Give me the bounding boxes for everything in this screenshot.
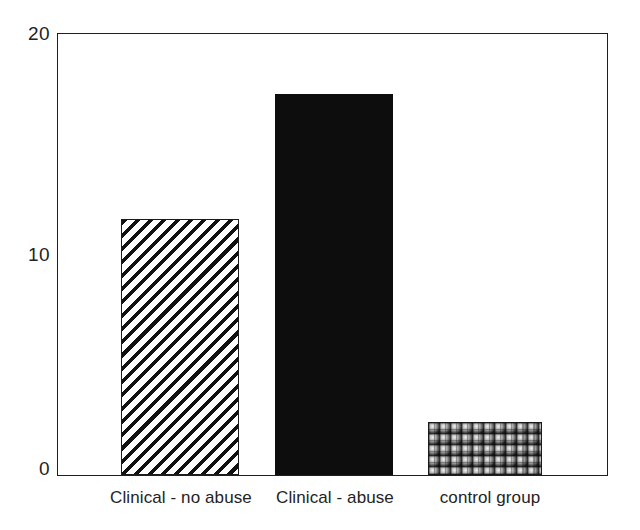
y-tick-label-10: 10: [6, 245, 50, 264]
x-label-clinical-abuse: Clinical - abuse: [256, 487, 414, 509]
x-label-clinical-no-abuse: Clinical - no abuse: [100, 487, 262, 509]
bar-clinical-no-abuse: [121, 219, 239, 475]
y-axis-tick-labels: 20 10 0: [0, 0, 50, 530]
bar-control-group: [428, 422, 542, 475]
y-tick-label-20: 20: [6, 24, 50, 43]
x-axis-category-labels: Clinical - no abuse Clinical - abuse con…: [0, 487, 640, 517]
bar-clinical-abuse: [275, 94, 393, 476]
bar-chart-figure: 20 10 0 Clinical - no abuse Clinical - a…: [0, 0, 640, 530]
y-tick-label-0: 0: [6, 459, 50, 478]
plot-area: [57, 33, 608, 476]
x-label-control-group: control group: [410, 487, 570, 509]
